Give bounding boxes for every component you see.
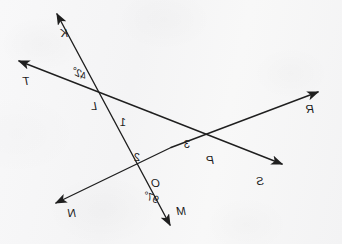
label-angle-2: 2 (134, 152, 140, 163)
mirrored-drawing-layer: K T R S M N L P O 1 2 3 42° 97° (0, 0, 342, 244)
line-S-T (19, 61, 282, 164)
ray-to-M (114, 120, 171, 226)
label-M: M (176, 206, 186, 218)
ray-to-R (171, 92, 318, 148)
label-R: R (306, 104, 314, 116)
label-P: P (206, 155, 214, 167)
label-L: L (91, 101, 97, 113)
label-K: K (60, 28, 68, 40)
label-T: T (23, 76, 30, 88)
figure-line-art (0, 0, 342, 244)
label-angle-1: 1 (120, 117, 126, 128)
label-angle-3: 3 (184, 139, 190, 150)
label-O: O (151, 178, 160, 190)
geometry-diagram-scan: K T R S M N L P O 1 2 3 42° 97° (0, 0, 342, 244)
ray-to-S (151, 113, 282, 165)
label-S: S (256, 176, 264, 188)
label-N: N (68, 208, 76, 220)
